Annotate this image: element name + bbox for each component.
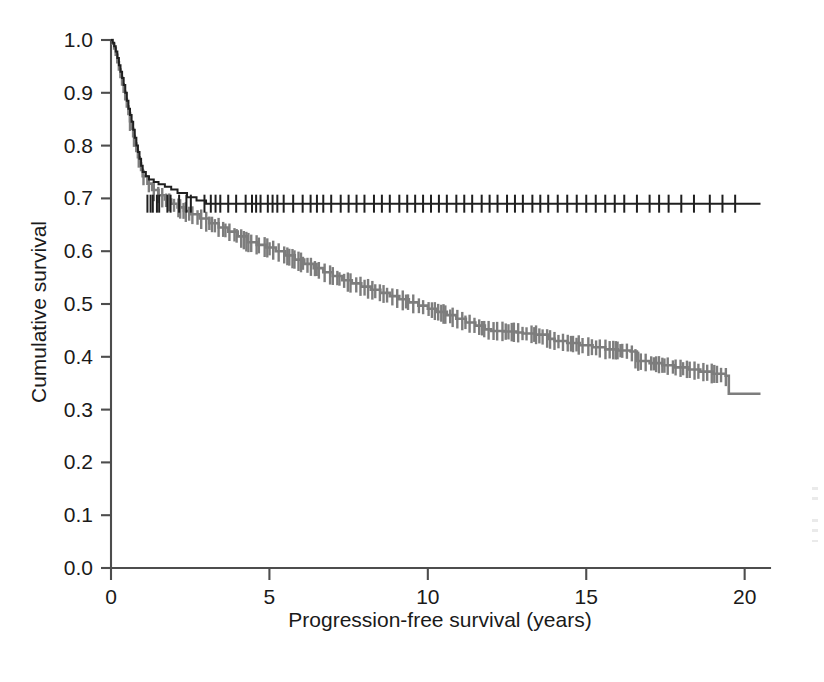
x-tick-label: 15	[575, 585, 598, 608]
y-tick-label: 0.7	[64, 186, 93, 209]
axes-group	[111, 40, 770, 568]
y-tick-label: 1.0	[64, 28, 93, 51]
y-axis-ticks	[101, 40, 111, 568]
y-tick-label: 0.5	[64, 292, 93, 315]
y-axis-tick-labels: 0.00.10.20.30.40.50.60.70.80.91.0	[64, 28, 94, 579]
x-tick-label: 20	[733, 585, 756, 608]
y-tick-label: 0.8	[64, 134, 93, 157]
x-axis-title: Progression-free survival (years)	[288, 608, 591, 631]
survival-chart-figure: 0.00.10.20.30.40.50.60.70.80.91.0 051015…	[0, 0, 824, 682]
scan-edge-artifacts	[812, 487, 818, 542]
y-tick-label: 0.1	[64, 503, 93, 526]
y-tick-label: 0.3	[64, 398, 93, 421]
y-axis-title: Cumulative survival	[27, 221, 50, 403]
x-axis-ticks	[111, 568, 745, 580]
y-tick-label: 0.0	[64, 556, 93, 579]
y-tick-label: 0.2	[64, 450, 93, 473]
x-tick-label: 0	[105, 585, 117, 608]
chart-canvas: 0.00.10.20.30.40.50.60.70.80.91.0 051015…	[0, 0, 824, 682]
upper-curve-path	[111, 40, 761, 204]
lower-survival-curve	[111, 40, 761, 394]
y-tick-label: 0.4	[64, 345, 94, 368]
upper-survival-curve	[111, 40, 761, 213]
x-tick-label: 5	[264, 585, 276, 608]
y-tick-label: 0.9	[64, 81, 93, 104]
lower-curve-censor-marks	[130, 112, 726, 386]
x-tick-label: 10	[416, 585, 439, 608]
y-tick-label: 0.6	[64, 239, 93, 262]
x-axis-tick-labels: 05101520	[105, 585, 756, 608]
